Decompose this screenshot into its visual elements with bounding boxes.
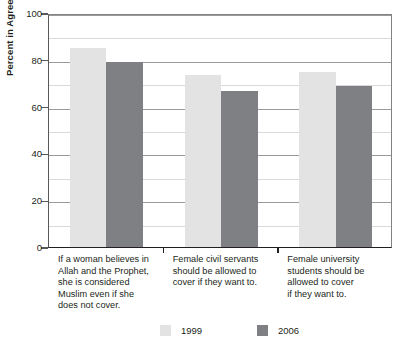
y-tick-label: 80 [8,56,42,66]
y-tick-mark [41,107,48,108]
bar-chart: Percent in Agreement 020406080100 If a w… [0,0,402,342]
y-tick-mark [41,154,48,155]
y-tick-mark [41,201,48,202]
y-tick-label-wrap: 80 [0,56,42,66]
gridline [49,15,391,16]
y-tick-label: 100 [8,9,42,19]
y-tick-mark [41,13,48,14]
y-tick-label: 20 [8,196,42,206]
y-tick-label-wrap: 20 [0,196,42,206]
category-label-line: Female university [287,254,388,266]
bar-1999-group-2 [185,75,222,247]
gridline-minor [49,38,391,39]
y-tick-label-wrap: 0 [0,243,42,253]
category-label-line: Muslim even if she [58,289,159,301]
category-label-line: If a woman believes in [58,254,159,266]
category-label-line: Female civil servants [173,254,274,266]
legend-item-2006[interactable]: 2006 [257,320,299,332]
y-tick-label-wrap: 40 [0,149,42,159]
y-tick-label-wrap: 60 [0,103,42,113]
y-tick-label-wrap: 100 [0,9,42,19]
bar-2006-group-2 [221,91,258,247]
y-tick-mark [41,247,48,248]
category-label-1: If a woman believes inAllah and the Prop… [58,254,159,312]
y-tick-label: 0 [8,243,42,253]
category-label-line: she is considered [58,277,159,289]
x-tick-mark [163,248,164,253]
plot-area [48,14,392,248]
bar-2006-group-3 [336,86,373,248]
category-label-3: Female universitystudents should beallow… [287,254,388,300]
category-label-line: Allah and the Prophet, [58,266,159,278]
legend-swatch-icon [160,325,171,336]
bar-2006-group-1 [106,62,143,247]
category-label-line: does not cover. [58,300,159,312]
category-label-line: if they want to. [287,289,388,301]
bar-1999-group-3 [299,72,336,248]
legend-label: 1999 [181,325,202,336]
y-tick-label: 40 [8,149,42,159]
y-tick-mark [41,60,48,61]
category-label-line: cover if they want to. [173,277,274,289]
category-label-line: allowed to cover [287,277,388,289]
category-label-line: students should be [287,266,388,278]
category-label-2: Female civil servantsshould be allowed t… [173,254,274,289]
legend-item-1999[interactable]: 1999 [160,320,202,332]
category-label-line: should be allowed to [173,266,274,278]
legend-label: 2006 [278,325,299,336]
y-tick-label: 60 [8,103,42,113]
x-tick-mark [277,248,278,253]
legend-swatch-icon [257,325,268,336]
bar-1999-group-1 [70,48,107,247]
